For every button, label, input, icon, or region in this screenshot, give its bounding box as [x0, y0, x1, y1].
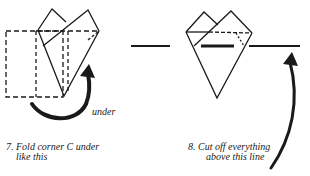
heart-right-lobe [194, 11, 252, 46]
step-number: 8. [188, 141, 196, 152]
figure-7-drawing [6, 9, 99, 97]
caption-line: like this [6, 152, 99, 162]
kite-triangle [186, 32, 252, 98]
dashed-rectangle [6, 31, 63, 97]
figure-7-caption: 7. Fold corner C under like this [6, 142, 99, 162]
heart-left-lobe [38, 9, 66, 30]
heart-right-lobe [43, 10, 99, 46]
curved-arrow-icon [271, 52, 298, 168]
arrow-label-under: under [92, 106, 115, 117]
step-number: 7. [6, 141, 14, 152]
figure-8-caption: 8. Cut off everything above this line [188, 142, 270, 162]
figure-8-drawing [131, 11, 300, 98]
caption-line: above this line [188, 152, 270, 162]
heart-left-lobe [186, 12, 218, 32]
